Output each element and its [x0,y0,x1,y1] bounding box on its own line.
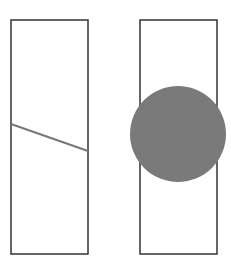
sloped-line [11,124,88,151]
gray-circle [130,86,226,182]
diagram-canvas [0,0,231,265]
